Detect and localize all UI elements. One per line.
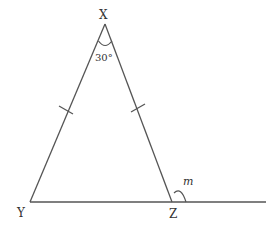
apex-angle-label: 30° xyxy=(95,53,113,63)
side-xz xyxy=(105,24,172,202)
side-xy xyxy=(30,24,105,202)
vertex-label-y: Y xyxy=(17,207,25,219)
triangle-diagram: X Y Z 30° m xyxy=(0,0,278,232)
exterior-angle-arc xyxy=(174,191,186,202)
apex-angle-arc xyxy=(99,41,113,46)
diagram-figure xyxy=(0,0,278,232)
tick-mark-xy xyxy=(59,106,73,114)
vertex-label-x: X xyxy=(99,9,108,21)
vertex-label-z: Z xyxy=(169,208,177,220)
exterior-angle-label: m xyxy=(183,176,193,187)
